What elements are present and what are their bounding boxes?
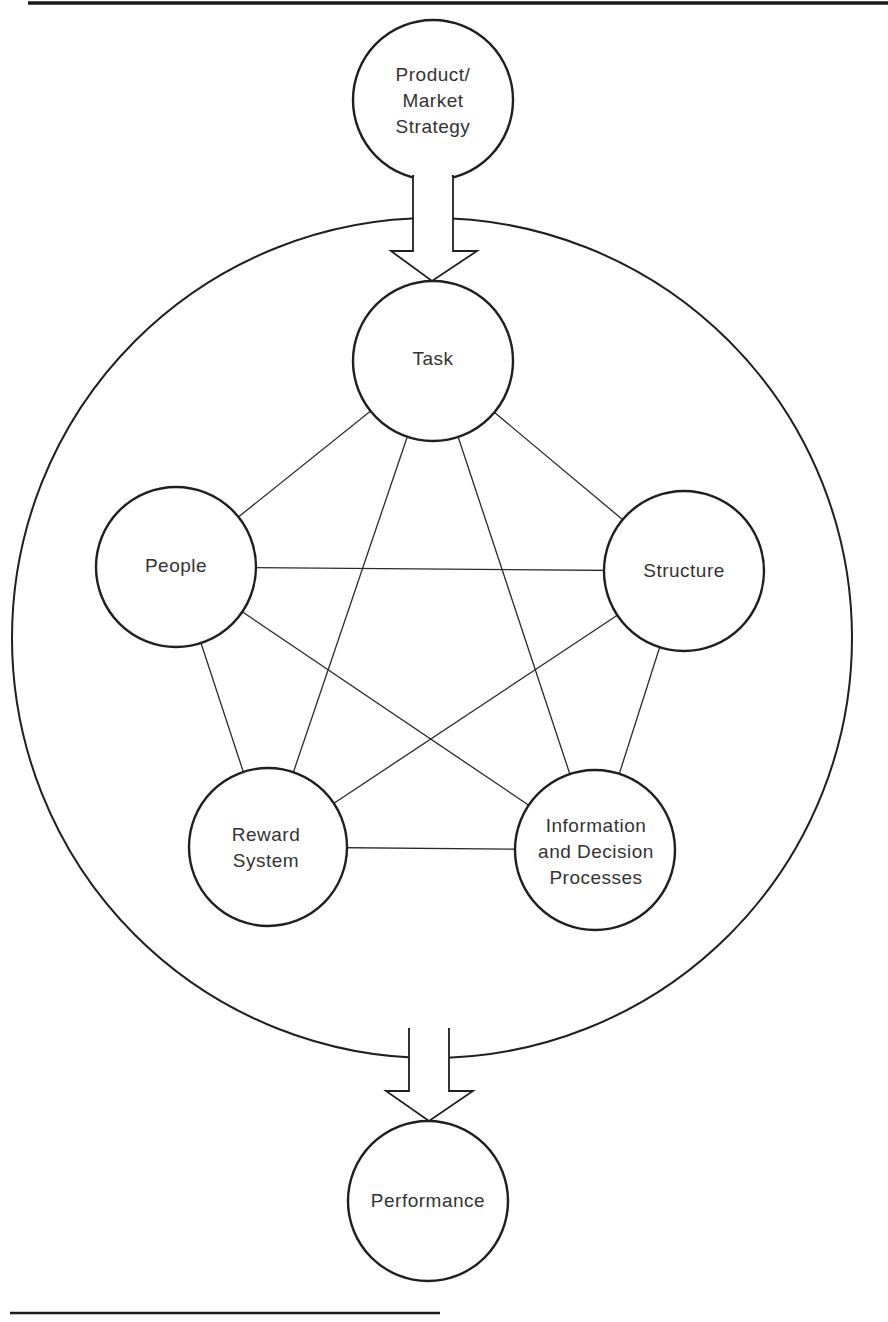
arrow-mask [414, 170, 452, 182]
down-arrow-icon [391, 176, 477, 281]
performance-node-label: Performance [353, 1188, 503, 1214]
people-node-label: People [101, 553, 251, 579]
information-node-label: Information and Decision Processes [521, 813, 671, 891]
structure-node-label: Structure [609, 558, 759, 584]
strategy-node-label: Product/ Market Strategy [358, 62, 508, 140]
down-arrow-icon [386, 1029, 473, 1121]
organization-design-diagram [0, 0, 888, 1322]
task-node-label: Task [358, 346, 508, 372]
reward-node-label: Reward System [191, 822, 341, 874]
